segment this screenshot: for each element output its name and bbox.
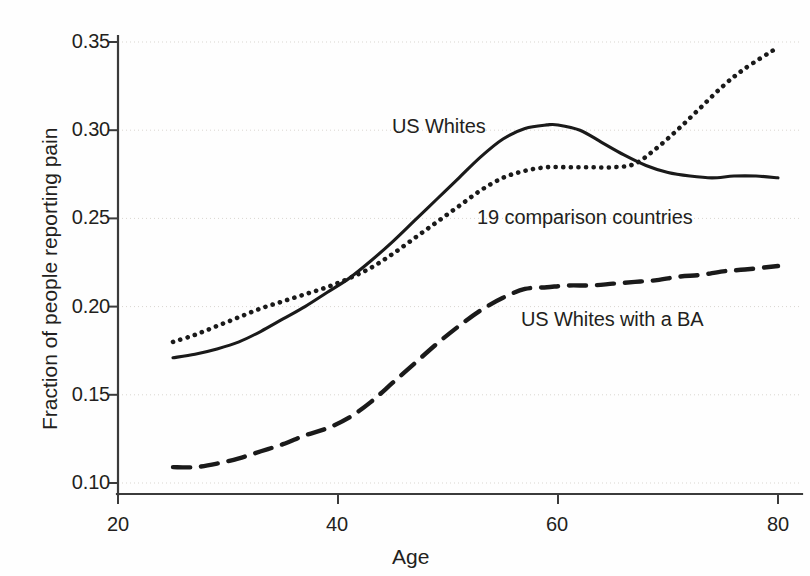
series-label-comparison-countries: 19 comparison countries [477,206,693,229]
axis-lines [117,36,802,495]
series-line-1 [173,47,778,342]
xtick-label-1: 40 [307,513,367,536]
y-axis-title: Fraction of people reporting pain [38,128,62,430]
pain-by-age-chart: 0.35 0.30 0.25 0.20 0.15 0.10 20 40 60 8… [0,0,810,576]
ytick-label-0: 0.35 [34,30,110,53]
tick-marks [109,42,778,504]
series-line-2 [173,266,778,467]
ytick-label-5: 0.10 [34,471,110,494]
series-label-us-whites-ba: US Whites with a BA [521,308,704,331]
data-series [173,47,778,467]
chart-canvas [0,0,810,576]
series-label-us-whites: US Whites [392,115,486,138]
xtick-label-3: 80 [748,513,808,536]
xtick-label-2: 60 [527,513,587,536]
x-axis-title: Age [392,545,429,569]
xtick-label-0: 20 [88,513,148,536]
